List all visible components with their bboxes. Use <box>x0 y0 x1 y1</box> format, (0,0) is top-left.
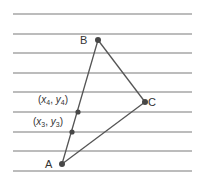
diagram-svg: B C A (x4, y4) (x3, y3) <box>0 0 202 182</box>
triangle-edges <box>62 40 145 164</box>
point-b <box>95 37 101 43</box>
label-x3-y3: (x3, y3) <box>33 116 63 128</box>
label-x4-y4: (x4, y4) <box>38 94 68 106</box>
vertex-points <box>59 37 148 167</box>
edge-ca <box>62 102 145 164</box>
label-b: B <box>80 34 87 46</box>
rule-lines <box>13 14 192 171</box>
label-a: A <box>45 158 53 170</box>
point-a <box>59 161 65 167</box>
label-c: C <box>148 96 156 108</box>
point-labels: B C A (x4, y4) (x3, y3) <box>33 34 156 170</box>
edge-bc <box>98 40 145 102</box>
point-x4-y4 <box>75 109 80 114</box>
paren-close: ) <box>65 94 68 105</box>
point-x3-y3 <box>69 129 74 134</box>
triangle-diagram: B C A (x4, y4) (x3, y3) <box>0 0 202 182</box>
paren-close: ) <box>60 116 63 127</box>
